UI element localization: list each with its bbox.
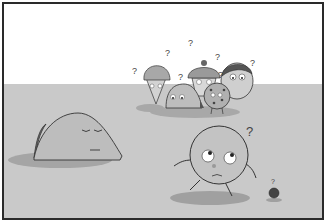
- question-mark: ?: [250, 58, 255, 68]
- question-mark: ?: [215, 52, 220, 62]
- question-mark: ?: [188, 38, 193, 48]
- question-mark: ?: [132, 66, 137, 76]
- question-mark: ?: [246, 124, 253, 139]
- question-mark: ?: [218, 70, 223, 80]
- cone-shadow: [136, 104, 164, 112]
- question-mark: ?: [165, 48, 170, 58]
- comic-panel: ? ? ? ? ? ? ? ? ?: [0, 0, 326, 222]
- question-mark: ?: [178, 72, 183, 82]
- question-mark: ?: [271, 178, 275, 185]
- illustration: ? ? ? ? ? ? ? ? ?: [0, 0, 326, 222]
